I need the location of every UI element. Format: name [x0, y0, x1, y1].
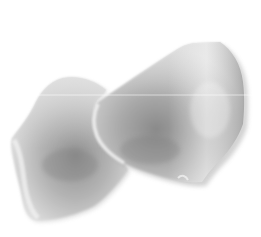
petals-illustration — [0, 0, 261, 237]
photo-scene: Two pale grey-white rose petals overlapp… — [0, 0, 261, 237]
